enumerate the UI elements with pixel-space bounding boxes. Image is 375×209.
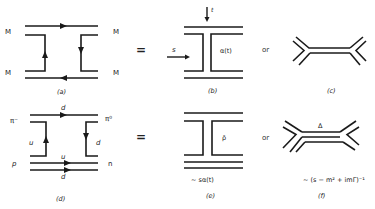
panel-a-diagram	[25, 23, 98, 81]
caption-d: (d)	[56, 196, 65, 203]
arrow-up-icon	[42, 51, 48, 58]
label-m-left-top: M	[5, 29, 11, 36]
label-m-right-top: M	[113, 29, 119, 36]
arrow-left-icon	[60, 75, 67, 81]
panel-e-diagram	[184, 113, 243, 168]
arrow-right-icon	[64, 167, 71, 173]
label-quark-u-left: u	[29, 140, 33, 147]
caption-b: (b)	[208, 88, 217, 95]
caption-f: (f)	[318, 193, 325, 200]
panel-b-diagram	[167, 7, 243, 78]
label-pi-zero: π⁰	[105, 116, 112, 123]
arrow-down-icon	[78, 47, 84, 54]
caption-c: (c)	[327, 88, 336, 95]
caption-a: (a)	[57, 89, 66, 96]
label-regge-amplitude: ~ sα(t)	[191, 177, 214, 184]
arrow-right-icon	[60, 112, 67, 118]
arrow-right-icon	[185, 55, 190, 60]
arrow-right-icon	[60, 23, 67, 29]
caption-e: (e)	[206, 193, 215, 200]
panel-c-diagram	[293, 37, 366, 65]
or-label: or	[262, 47, 269, 54]
label-delta-resonance: Δ	[318, 123, 322, 130]
label-m-right-bottom: M	[113, 70, 119, 77]
equals-sign: =	[136, 131, 146, 143]
arrow-down-icon	[83, 133, 89, 140]
label-t: t	[211, 7, 213, 13]
label-s: s	[172, 47, 176, 54]
label-quark-d-right: d	[96, 140, 100, 147]
label-quark-d-bottom: d	[61, 174, 65, 181]
label-quark-d-top: d	[61, 105, 65, 112]
label-rho-exchange: ρ̄	[222, 135, 226, 142]
label-m-left-bottom: M	[5, 70, 11, 77]
label-breit-wigner: ~ (s − m² + imΓ)⁻¹	[303, 177, 365, 184]
or-label: or	[262, 135, 269, 142]
arrow-down-icon	[205, 17, 210, 22]
arrow-up-icon	[43, 136, 49, 143]
label-p: p	[12, 161, 16, 168]
equals-sign: =	[136, 44, 146, 56]
label-n: n	[108, 161, 112, 168]
label-quark-u-mid: u	[61, 154, 65, 161]
label-pi-minus: π⁻	[10, 118, 18, 125]
label-alpha-t: α(t)	[220, 48, 232, 55]
panel-d-diagram	[30, 112, 98, 173]
